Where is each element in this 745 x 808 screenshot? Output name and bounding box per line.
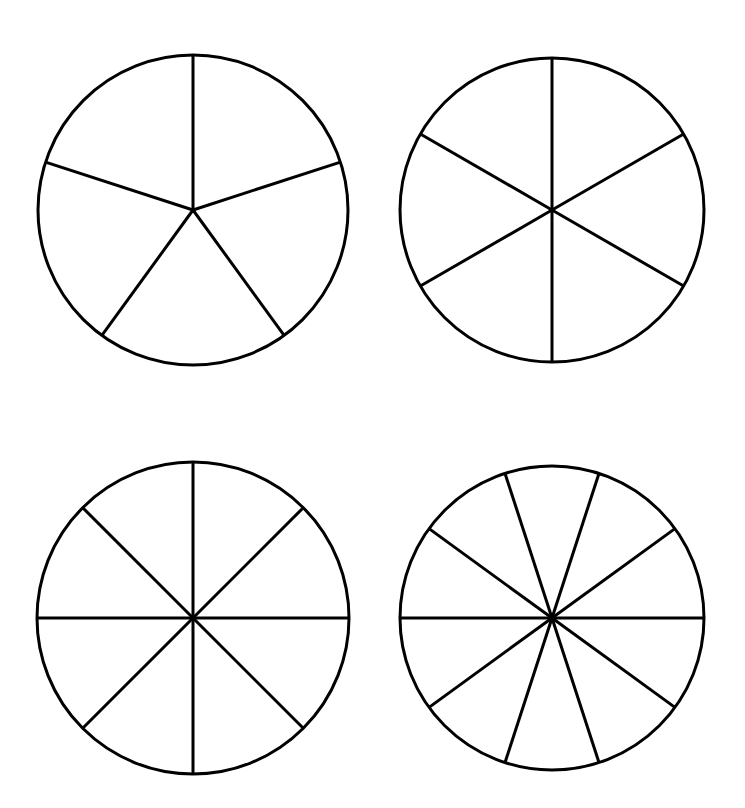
circle-eighths (32, 457, 354, 779)
circle-sixths (395, 53, 709, 367)
circle-tenths-svg (395, 461, 709, 775)
circle-fifths-svg (33, 50, 353, 370)
circle-tenths (395, 461, 709, 775)
circle-eighths-svg (32, 457, 354, 779)
fraction-circles-worksheet (0, 0, 745, 808)
circle-sixths-svg (395, 53, 709, 367)
circle-fifths (33, 50, 353, 370)
circle-eighths-radii (37, 462, 349, 774)
